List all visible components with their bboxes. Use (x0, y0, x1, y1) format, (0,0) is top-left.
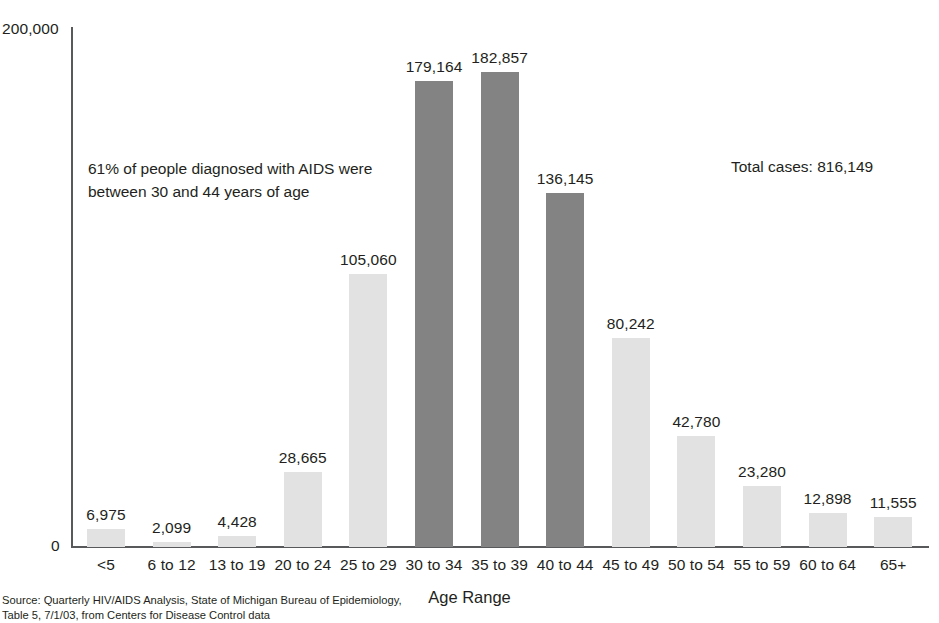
x-axis-tick-label: 6 to 12 (143, 556, 201, 574)
bar-slot: 4,428 (208, 27, 266, 547)
y-axis-tick-0: 0 (51, 537, 60, 555)
bar-value-label: 2,099 (143, 519, 201, 537)
annotation-line-1: 61% of people diagnosed with AIDS were (88, 157, 438, 180)
bar-value-label: 80,242 (602, 315, 660, 333)
bar-slot: 182,857 (471, 27, 529, 547)
source-note: Source: Quarterly HIV/AIDS Analysis, Sta… (2, 593, 482, 623)
annotation-callout: 61% of people diagnosed with AIDS were b… (88, 157, 438, 203)
x-axis-tick-label: 60 to 64 (799, 556, 857, 574)
plot-area: 6,9752,0994,42828,665105,060179,164182,8… (73, 27, 929, 547)
x-axis-tick-label: 35 to 39 (471, 556, 529, 574)
bar-chart: 200,000 0 6,9752,0994,42828,665105,06017… (0, 0, 939, 623)
y-axis-tick-200000: 200,000 (2, 20, 59, 38)
bar[interactable] (481, 72, 519, 547)
source-line-2: Table 5, 7/1/03, from Centers for Diseas… (2, 608, 482, 623)
bar-value-label: 136,145 (536, 170, 594, 188)
x-axis-tick-label: 30 to 34 (405, 556, 463, 574)
bar-value-label: 4,428 (208, 513, 266, 531)
bar-slot: 6,975 (77, 27, 135, 547)
bar-value-label: 105,060 (339, 251, 397, 269)
bar-value-label: 12,898 (799, 490, 857, 508)
x-axis-tick-label: 20 to 24 (274, 556, 332, 574)
bar-slot: 105,060 (339, 27, 397, 547)
bar[interactable] (153, 542, 191, 547)
bar-slot: 23,280 (733, 27, 791, 547)
bar[interactable] (349, 274, 387, 547)
bar-value-label: 42,780 (667, 413, 725, 431)
annotation-line-2: between 30 and 44 years of age (88, 180, 438, 203)
bar-slot: 2,099 (143, 27, 201, 547)
bar-value-label: 182,857 (471, 49, 529, 67)
x-axis-tick-label: 25 to 29 (339, 556, 397, 574)
bar[interactable] (809, 513, 847, 547)
bar[interactable] (415, 81, 453, 547)
bar-value-label: 179,164 (405, 58, 463, 76)
bar-value-label: 23,280 (733, 463, 791, 481)
bar[interactable] (218, 536, 256, 548)
x-axis-tick-label: 40 to 44 (536, 556, 594, 574)
bar-value-label: 28,665 (274, 449, 332, 467)
total-cases-label: Total cases: 816,149 (731, 158, 873, 176)
x-axis-tick-label: 13 to 19 (208, 556, 266, 574)
bar-slot: 179,164 (405, 27, 463, 547)
bar-slot: 12,898 (799, 27, 857, 547)
bar-slot: 42,780 (667, 27, 725, 547)
bar-slot: 11,555 (864, 27, 922, 547)
bar-slot: 28,665 (274, 27, 332, 547)
x-axis-tick-label: <5 (77, 556, 135, 574)
bar-value-label: 6,975 (77, 506, 135, 524)
bar[interactable] (284, 472, 322, 547)
x-axis-tick-label: 45 to 49 (602, 556, 660, 574)
bar-value-label: 11,555 (864, 494, 922, 512)
bar[interactable] (677, 436, 715, 547)
bar[interactable] (546, 193, 584, 547)
x-axis-tick-label: 65+ (864, 556, 922, 574)
bar-slot: 136,145 (536, 27, 594, 547)
bar-slot: 80,242 (602, 27, 660, 547)
bar[interactable] (743, 486, 781, 547)
bar[interactable] (612, 338, 650, 547)
x-axis-tick-label: 50 to 54 (667, 556, 725, 574)
bar[interactable] (874, 517, 912, 547)
source-line-1: Source: Quarterly HIV/AIDS Analysis, Sta… (2, 593, 482, 608)
x-axis-tick-label: 55 to 59 (733, 556, 791, 574)
bar[interactable] (87, 529, 125, 547)
